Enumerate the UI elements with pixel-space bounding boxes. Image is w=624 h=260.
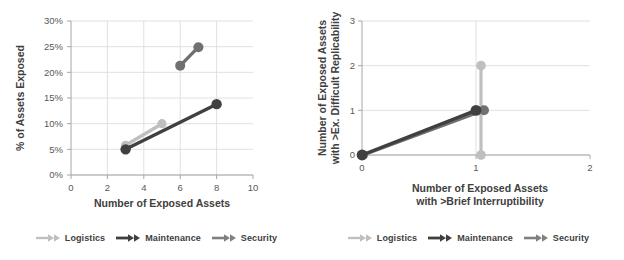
legend-right: Logistics Maintenance Security [312, 228, 624, 248]
x-tick-label: 2 [105, 182, 110, 193]
x-axis-title: Number of Exposed Assets [94, 197, 230, 209]
x-tick-labels: 0 2 4 6 8 10 [68, 182, 258, 193]
legend-label-maintenance: Maintenance [457, 233, 513, 243]
x-tick-marks [71, 175, 253, 179]
data-point-marker [357, 150, 368, 161]
left-chart-canvas: 0% 5% 10% 15% 20% 25% 30% 0 2 4 6 8 10 [0, 0, 312, 220]
y-tick-label: 1 [350, 105, 355, 116]
y-tick-label: 20% [44, 67, 64, 78]
legend-marker-logistics-icon [347, 233, 373, 243]
x-tick-label: 10 [248, 182, 259, 193]
x-tick-label: 6 [178, 182, 183, 193]
data-point-marker [120, 144, 130, 154]
y-tick-marks [67, 21, 71, 175]
legend-marker-maintenance-icon [115, 233, 141, 243]
x-axis-title-line2: with >Brief Interruptibility [415, 195, 544, 207]
data-point-marker [175, 61, 185, 71]
data-point-marker [476, 150, 486, 160]
legend-entry-logistics[interactable]: Logistics [342, 233, 422, 243]
chart-panel-left: 0% 5% 10% 15% 20% 25% 30% 0 2 4 6 8 10 [0, 0, 312, 260]
data-point-marker [471, 105, 482, 116]
legend-marker-logistics-icon [35, 233, 61, 243]
x-tick-label: 2 [587, 162, 592, 173]
legend-label-logistics: Logistics [377, 233, 417, 243]
legend-label-security: Security [241, 233, 277, 243]
x-tick-label: 0 [359, 162, 364, 173]
legend-label-logistics: Logistics [65, 233, 105, 243]
data-point-marker [193, 42, 203, 52]
x-tick-label: 4 [141, 182, 146, 193]
y-tick-marks [358, 21, 362, 155]
legend-entry-maintenance[interactable]: Maintenance [110, 233, 206, 243]
legend-marker-maintenance-icon [427, 233, 453, 243]
y-tick-labels: 0% 5% 10% 15% 20% 25% 30% [44, 15, 64, 180]
legend-entry-security[interactable]: Security [206, 233, 282, 243]
x-tick-labels: 0 1 2 [359, 162, 592, 173]
legend-entry-maintenance[interactable]: Maintenance [422, 233, 518, 243]
legend-label-maintenance: Maintenance [145, 233, 201, 243]
y-axis-title: % of Assets Exposed [14, 45, 26, 151]
y-tick-label: 0 [350, 149, 355, 160]
legend-entry-logistics[interactable]: Logistics [30, 233, 110, 243]
data-point-marker [211, 99, 221, 109]
figure-root: 0% 5% 10% 15% 20% 25% 30% 0 2 4 6 8 10 [0, 0, 624, 260]
y-axis-title-line1: Number of Exposed Assets [316, 20, 328, 156]
y-tick-label: 25% [44, 41, 64, 52]
legend-entry-security[interactable]: Security [518, 233, 594, 243]
y-tick-labels: 0 1 2 3 [350, 15, 355, 160]
y-tick-label: 3 [350, 15, 355, 26]
right-chart-canvas: 0 1 2 3 0 1 2 [312, 0, 624, 220]
x-tick-label: 8 [214, 182, 219, 193]
legend-label-security: Security [553, 233, 589, 243]
x-tick-label: 1 [473, 162, 478, 173]
y-tick-label: 10% [44, 118, 64, 129]
legend-left: Logistics Maintenance Security [0, 228, 312, 248]
y-tick-label: 5% [49, 144, 63, 155]
y-tick-label: 30% [44, 15, 64, 26]
x-tick-label: 0 [68, 182, 73, 193]
y-tick-label: 0% [49, 169, 63, 180]
y-tick-label: 15% [44, 92, 64, 103]
y-axis-title-line2: with >Ex. Difficult Replicability [329, 12, 341, 166]
data-point-marker [157, 119, 166, 128]
x-tick-marks [362, 155, 590, 159]
legend-marker-security-icon [523, 233, 549, 243]
legend-marker-security-icon [211, 233, 237, 243]
chart-panel-right: 0 1 2 3 0 1 2 [312, 0, 624, 260]
y-tick-label: 2 [350, 60, 355, 71]
x-axis-title-line1: Number of Exposed Assets [412, 182, 548, 194]
data-point-marker [476, 61, 486, 71]
